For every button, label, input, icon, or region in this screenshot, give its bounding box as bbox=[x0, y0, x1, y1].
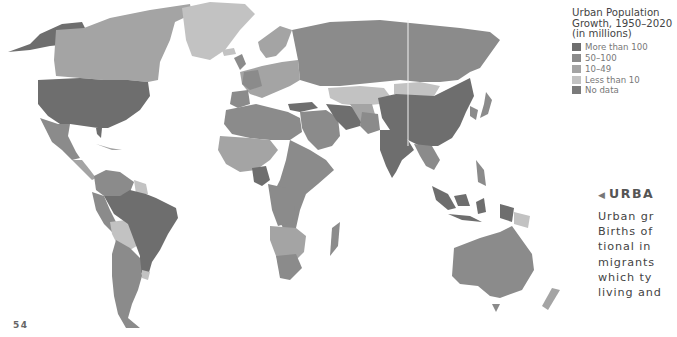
region-nigeria bbox=[252, 166, 270, 186]
region-russia bbox=[292, 20, 500, 86]
legend-label: 50–100 bbox=[585, 53, 617, 63]
sidebar-line: Urban gr bbox=[598, 209, 677, 224]
sidebar-line: which ty bbox=[598, 270, 677, 285]
map-legend: Urban Population Growth, 1950–2020 (in m… bbox=[572, 8, 652, 96]
legend-label: 10–49 bbox=[585, 64, 611, 74]
sidebar-line: Births of bbox=[598, 224, 677, 239]
legend-label: More than 100 bbox=[585, 42, 648, 52]
sidebar-line: migrants bbox=[598, 255, 677, 270]
legend-title-line: Urban Population bbox=[572, 8, 652, 19]
legend-label: No data bbox=[585, 85, 619, 95]
sidebar-body: Urban gr Births of tional in migrants wh… bbox=[598, 209, 677, 300]
region-canada bbox=[54, 4, 192, 82]
legend-item-10-49: 10–49 bbox=[572, 63, 652, 74]
legend-item-no-data: No data bbox=[572, 85, 652, 96]
legend-title: Urban Population Growth, 1950–2020 (in m… bbox=[572, 8, 652, 40]
legend-item-50-100: 50–100 bbox=[572, 53, 652, 64]
region-australia bbox=[452, 226, 534, 298]
legend-list: More than 100 50–100 10–49 Less than 10 … bbox=[572, 42, 652, 96]
legend-title-line: (in millions) bbox=[572, 29, 652, 40]
legend-swatch bbox=[572, 54, 581, 62]
sidebar-text: ◀URBA Urban gr Births of tional in migra… bbox=[598, 186, 677, 300]
legend-label: Less than 10 bbox=[585, 75, 640, 85]
legend-swatch bbox=[572, 43, 581, 51]
region-argentina bbox=[112, 240, 142, 328]
legend-swatch bbox=[572, 76, 581, 84]
sidebar-line: tional in bbox=[598, 239, 677, 254]
sidebar-line: living and bbox=[598, 285, 677, 300]
region-indonesia bbox=[432, 186, 456, 210]
page-number: 54 bbox=[13, 320, 29, 330]
sidebar-heading-text: URBA bbox=[609, 186, 654, 201]
legend-swatch bbox=[572, 86, 581, 94]
left-arrow-icon: ◀ bbox=[598, 190, 605, 200]
legend-item-less-than-10: Less than 10 bbox=[572, 74, 652, 85]
region-greenland bbox=[182, 2, 255, 60]
legend-swatch bbox=[572, 65, 581, 73]
legend-item-more-than-100: More than 100 bbox=[572, 42, 652, 53]
sidebar-heading: ◀URBA bbox=[598, 186, 677, 201]
region-usa bbox=[38, 78, 150, 128]
